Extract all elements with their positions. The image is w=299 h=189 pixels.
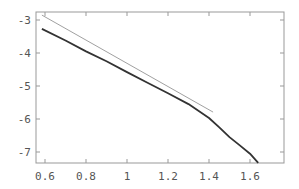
- reference-line: [42, 15, 213, 112]
- x-tick-label: 1.4: [199, 170, 219, 183]
- y-tick-label: -4: [18, 47, 32, 60]
- x-tick-label: 0.8: [76, 170, 96, 183]
- x-axis: 0.60.811.21.41.6: [35, 12, 260, 183]
- x-tick-label: 1: [124, 170, 131, 183]
- series-group: [42, 15, 258, 163]
- y-tick-label: -5: [18, 80, 31, 93]
- y-tick-label: -7: [18, 146, 31, 159]
- line-chart: -3-4-5-6-7 0.60.811.21.41.6: [0, 0, 299, 189]
- plot-frame: [36, 12, 284, 163]
- x-tick-label: 0.6: [35, 170, 55, 183]
- x-tick-label: 1.2: [158, 170, 178, 183]
- data-curve: [42, 29, 258, 163]
- x-tick-label: 1.6: [240, 170, 260, 183]
- y-tick-label: -3: [18, 14, 31, 27]
- y-tick-label: -6: [18, 113, 31, 126]
